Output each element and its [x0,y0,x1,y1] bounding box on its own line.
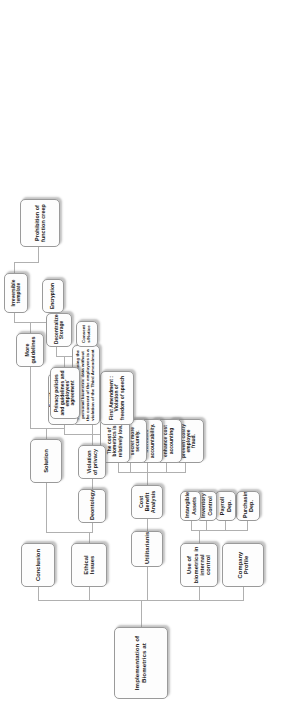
connector-to-function-creep [38,247,39,263]
node-more-guidelines-label: More guidelines [24,336,36,364]
node-root-label: Implementation of Biometrics at [134,630,148,696]
node-cost-benefit-analysis-label: Cost Benefit Analysis [138,488,156,516]
node-purchasing-dep-label: Purchasing Dep. [242,494,254,518]
connector-cba-stem [147,473,148,485]
connector-violation-stem [92,435,93,445]
connector-ethical-stem [89,533,90,543]
connector-guidelines-stem [30,323,31,333]
connector-ethical-spine [46,532,92,533]
node-payroll-dep-label: Payroll Dep. [219,494,231,518]
node-intangible-assets[interactable]: Intangible Assets [180,491,201,521]
connector-to-company-profile [243,587,244,601]
node-privacy-policies-label: Privacy policies and guidelines and empl… [54,370,76,416]
node-consents-notice-label: Consent s/Notice [82,324,92,344]
connector-cba-leaf-0 [185,463,186,473]
connector-policies-stem [64,357,65,367]
node-prohibition-of-function-creep-label: Prohibition of function creep [34,202,46,244]
connector-deontology-to-violation [92,479,93,489]
connector-root-stem [141,601,142,627]
node-utilitarianism[interactable]: Utilitarianism [131,531,163,567]
node-privacy-policies[interactable]: Privacy policies and guidelines and empl… [50,367,80,419]
node-company-profile[interactable]: Company Profile [222,543,264,587]
node-ethical-issues-label: Ethical Issues [83,546,96,584]
node-encryption[interactable]: Encryption [42,279,64,313]
node-utilitarian-leaf-4-label: The cost of biometrics is relatively low… [107,422,123,460]
connector-cba-leaf-4 [118,463,119,473]
node-utilitarianism-label: Utilitarianism [144,534,150,564]
node-prohibition-of-function-creep[interactable]: Prohibition of function creep [20,199,60,247]
connector-internal-control-spine [191,530,247,531]
node-irreversible-template[interactable]: Irreversible template [4,273,28,313]
node-consents-notice[interactable]: Consent s/Notice [76,321,98,347]
node-first-amendment-label: First Amendment : Violation of freedom o… [109,374,125,422]
node-use-of-biometrics-label: Use of biometrics in internal control [186,546,212,584]
connector-cba-spine [118,472,185,473]
connector-to-internal-control [199,587,200,601]
node-violation-of-privacy[interactable]: Violation of privacy [78,445,106,479]
node-more-guidelines[interactable]: More guidelines [16,333,44,367]
node-deontology-label: Deontology [89,492,95,520]
connector-internal-child-1 [225,521,226,531]
node-irreversible-template-label: Irreversible template [11,276,22,310]
connector-to-utilitarianism [147,567,148,601]
connector-internal-control-stem [199,531,200,543]
node-encryption-label: Encryption [50,282,55,310]
connector-amendment-1 [92,425,93,435]
connector-level1-spine [38,600,243,601]
node-purchasing-dep[interactable]: Purchasing Dep. [236,491,260,521]
connector-internal-child-0 [247,521,248,531]
connector-internal-child-2 [206,521,207,531]
node-payroll-dep[interactable]: Payroll Dep. [215,491,236,521]
connector-internal-child-3 [191,521,192,531]
connector-cba-leaf-2 [147,463,148,473]
connector-utilitarianism-to-cba [147,519,148,531]
connector-to-ethical-issues [89,587,90,601]
connector-cba-leaf-1 [166,463,167,473]
node-violation-of-privacy-label: Violation of privacy [86,448,98,476]
node-conclusion-label: Conclusion [35,546,41,584]
connector-to-conclusion [38,587,39,601]
node-decentralized-storage-label: Decentralized Storage [54,316,65,344]
node-solution[interactable]: Solution [30,439,62,483]
node-ethical-issues[interactable]: Ethical Issues [71,543,107,587]
node-use-of-biometrics[interactable]: Use of biometrics in internal control [180,543,218,587]
connector-solution-spine [30,428,64,429]
node-deontology[interactable]: Deontology [78,489,106,523]
connector-to-more-guidelines [30,367,31,429]
connector-function-creep-spine [14,262,38,263]
node-decentralized-storage[interactable]: Decentralized Storage [46,313,72,347]
connector-guideline-child-1 [14,313,15,323]
node-cost-benefit-analysis[interactable]: Cost Benefit Analysis [131,485,163,519]
node-solution-label: Solution [43,442,49,480]
connector-irreversible-stem [14,263,15,273]
node-intangible-assets-label: Intangible Assets [184,494,196,518]
node-root[interactable]: Implementation of Biometrics at [114,627,168,699]
connector-cba-leaf-3 [130,463,131,473]
tree-diagram-canvas: Implementation of Biometrics at Company … [0,0,283,717]
node-inventory-control-label: Inventory Control [200,494,212,518]
diagram-rotation-wrapper: Implementation of Biometrics at Company … [0,0,283,717]
connector-policy-child-1 [56,347,57,357]
node-first-amendment[interactable]: First Amendment : Violation of freedom o… [100,371,134,425]
connector-to-solution [46,483,47,533]
connector-solution-stem [46,429,47,439]
connector-to-deontology [92,523,93,533]
node-conclusion[interactable]: Conclusion [21,543,55,587]
node-company-profile-label: Company Profile [237,546,250,584]
